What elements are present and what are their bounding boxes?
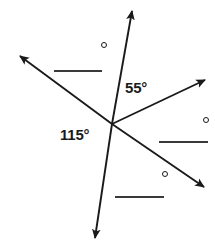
answer-blank-bottom[interactable] [115,196,164,198]
angle-diagram-figure: 55° 115° [0,0,215,250]
rays-canvas [0,0,215,250]
ray-down-line [95,124,112,238]
answer-blank-right[interactable] [159,141,208,143]
ray-up-left-line [20,56,112,124]
angle-label-115: 115° [60,127,89,142]
ray-up-right-line [112,11,132,124]
angle-label-55: 55° [125,80,147,95]
degree-symbol-icon-bottom [162,171,168,177]
ray-down-right-line [112,124,204,187]
degree-symbol-icon-right [203,117,209,123]
answer-blank-topleft[interactable] [54,70,102,72]
degree-symbol-icon-top [101,42,107,48]
